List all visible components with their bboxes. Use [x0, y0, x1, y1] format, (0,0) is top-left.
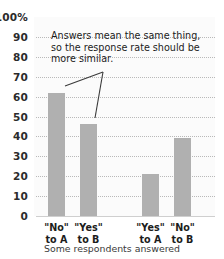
- bar-chart: 100%9080706050403020100 Answers mean the…: [0, 0, 224, 259]
- y-axis-tick-label: 100%: [0, 12, 28, 23]
- x-axis-tick-label: "Yes"to B: [66, 222, 112, 245]
- y-axis-tick-label: 50: [0, 112, 28, 123]
- x-axis-tick-line1: "No": [170, 222, 195, 233]
- y-axis-tick-label: 80: [0, 52, 28, 63]
- y-axis-tick-label: 70: [0, 72, 28, 83]
- x-axis-tick-line1: "Yes": [74, 222, 102, 233]
- y-axis-tick-label: 10: [0, 191, 28, 202]
- gridline: [36, 77, 215, 78]
- gridline: [36, 216, 215, 217]
- y-axis-tick-label: 0: [0, 211, 28, 222]
- bar: [174, 138, 191, 216]
- y-axis-tick-label: 20: [0, 171, 28, 182]
- bar: [80, 124, 97, 216]
- y-axis-tick-label: 60: [0, 92, 28, 103]
- x-axis-tick-label: "No"to B: [160, 222, 206, 245]
- bar: [142, 174, 159, 216]
- y-axis-tick-label: 90: [0, 32, 28, 43]
- y-axis-tick-label: 30: [0, 151, 28, 162]
- annotation-text: Answers mean the same thing, so the resp…: [51, 30, 203, 65]
- bar: [48, 93, 65, 216]
- y-axis-tick-label: 40: [0, 131, 28, 142]
- x-axis-caption: Some respondents answered: [0, 243, 224, 254]
